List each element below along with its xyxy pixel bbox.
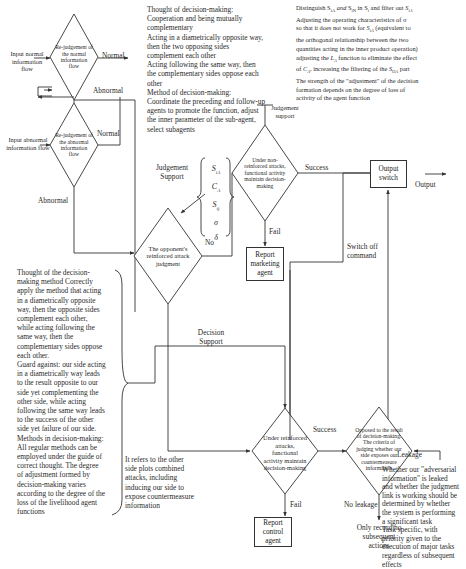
- parameter-sigma: σ: [205, 216, 227, 231]
- input-normal-label: Input normal information flow: [6, 50, 48, 73]
- edge-label-switch-off: Switch off command: [347, 242, 381, 260]
- note-left-method: Thought of the decision- making method C…: [17, 268, 121, 516]
- parameter-c-a: CA: [205, 180, 227, 198]
- parameter-s-ia: SiA: [205, 162, 227, 180]
- edge-label-decision-support: Decision Support: [192, 328, 230, 346]
- edge-label-success-2: Success: [313, 425, 336, 434]
- edge-label-leakage: Leakage: [397, 450, 422, 459]
- edge-label-abnormal-1: Abnormal: [93, 86, 123, 95]
- decision-opponent-attack: The opponent's reinforced attack judgmen…: [143, 232, 193, 280]
- edge-label-fail-1: Fail: [269, 227, 281, 236]
- report-control-agent-box: Report control agent: [254, 517, 292, 547]
- decision-rejudge-abnormal: Re-judgement of the abnormal information…: [55, 128, 93, 162]
- edge-label-output: Output: [415, 180, 436, 189]
- report-marketing-agent-box: Report marketing agent: [246, 247, 284, 281]
- parameter-s-ij: Sij: [205, 198, 227, 216]
- edge-label-no-leakage: No leakage: [344, 500, 377, 509]
- edge-label-judgement-support-left: Judgement Support: [148, 163, 196, 181]
- edge-label-abnormal-2: Abnormal: [38, 196, 68, 205]
- input-abnormal-label: Input abnormal information flow: [4, 136, 52, 151]
- edge-label-success-1: Success: [305, 163, 328, 172]
- decision-rejudge-normal: Re-judgement of the normal information f…: [55, 40, 93, 74]
- note-adversarial: Whether our "adversarial information" is…: [382, 466, 466, 569]
- parameter-stack: SiA CA Sij σ δ: [205, 162, 227, 245]
- decision-non-reinforced: Under non-reinforced attacks, functional…: [242, 153, 288, 193]
- edge-label-fail-2: Fail: [290, 500, 302, 509]
- edge-label-normal-2: Normal: [97, 129, 120, 138]
- parameter-delta: δ: [205, 231, 227, 246]
- note-distinguish: Distinguish SiA and SiN in Si and filter…: [296, 4, 464, 103]
- edge-label-normal-1: Normal: [102, 51, 125, 60]
- decision-reinforced: Under reinforced attacks, functional act…: [262, 428, 308, 478]
- output-switch-box: Output switch: [370, 160, 407, 188]
- note-other-side: It refers to the other side plots combin…: [125, 455, 210, 510]
